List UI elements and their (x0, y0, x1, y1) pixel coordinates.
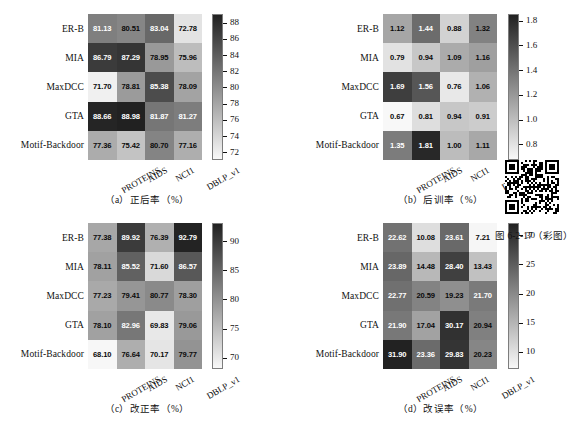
colorbar-tick-label: 1.6 (519, 40, 537, 50)
colorbar-tick-label: 1.2 (519, 89, 537, 99)
heatmap-cell: 28.40 (440, 252, 469, 281)
colorbar-tick-label: 80 (223, 82, 239, 92)
x-tick-label: DBLP_v1 (500, 374, 537, 401)
heatmap-cell: 21.90 (383, 311, 412, 340)
heatmap-cell: 1.06 (469, 72, 498, 101)
heatmap-cell: 82.96 (117, 311, 146, 340)
heatmap-cell: 86.57 (174, 252, 203, 281)
heatmap-cell: 1.81 (412, 131, 441, 160)
colorbar-gradient (212, 223, 223, 369)
heatmap-cell: 20.94 (469, 311, 498, 340)
heatmap-cell: 20.23 (469, 340, 498, 369)
y-tick-label: GTA (10, 102, 84, 131)
heatmap-cell: 78.81 (117, 72, 146, 101)
heatmap-cell: 22.77 (383, 281, 412, 310)
heatmap-cell: 1.69 (383, 72, 412, 101)
heatmap-cell: 78.30 (174, 281, 203, 310)
heatmap-cell: 76.64 (117, 340, 146, 369)
heatmap-cell: 19.23 (440, 281, 469, 310)
y-tick-label: MIA (10, 43, 84, 72)
heatmap-cell: 21.70 (469, 281, 498, 310)
heatmap-cell: 81.13 (88, 14, 117, 43)
colorbar: 1015202530 (508, 223, 553, 369)
heatmap-cell: 1.32 (469, 14, 498, 43)
x-tick-label: DBLP_v1 (205, 374, 242, 401)
heatmap-cell: 80.51 (117, 14, 146, 43)
heatmap-cell: 77.23 (88, 281, 117, 310)
heatmap-cell: 81.87 (145, 102, 174, 131)
heatmap-cell: 75.42 (117, 131, 146, 160)
heatmap-cell: 1.44 (412, 14, 441, 43)
heatmap-cell: 76.39 (145, 223, 174, 252)
heatmap-cell: 77.38 (88, 223, 117, 252)
colorbar-tick-label: 76 (223, 114, 239, 124)
panel-a: ER-BMIAMaxDCCGTAMotif-Backdoor81.1380.51… (0, 0, 294, 217)
heatmap-cell: 1.35 (383, 131, 412, 160)
heatmap-cell: 85.38 (145, 72, 174, 101)
heatmap-cell: 83.04 (145, 14, 174, 43)
colorbar-tick-label: 1.4 (519, 65, 537, 75)
heatmap-matrix: 22.6210.0823.617.2123.8914.4828.4013.432… (383, 223, 497, 369)
x-tick-label: NCI1 (174, 374, 196, 393)
heatmap-cell: 92.79 (174, 223, 203, 252)
colorbar-tick-label: 78 (223, 98, 239, 108)
heatmap-cell: 79.06 (174, 311, 203, 340)
colorbar-tick-label: 25 (519, 259, 535, 269)
y-tick-label: MIA (305, 252, 379, 281)
heatmap-cell: 69.83 (145, 311, 174, 340)
colorbar: 0.81.01.21.41.61.8 (508, 14, 553, 160)
heatmap-cell: 14.48 (412, 252, 441, 281)
colorbar-tick-label: 74 (223, 131, 239, 141)
y-axis-labels: ER-BMIAMaxDCCGTAMotif-Backdoor (305, 14, 383, 160)
heatmap-matrix: 77.3889.9276.3992.7978.1185.5271.6086.57… (88, 223, 202, 369)
x-tick-label: NCI1 (174, 165, 196, 184)
heatmap-cell: 1.11 (469, 131, 498, 160)
heatmap-cell: 0.76 (440, 72, 469, 101)
colorbar-tick-label: 15 (519, 317, 535, 327)
heatmap-cell: 13.43 (469, 252, 498, 281)
heatmap-cell: 1.12 (383, 14, 412, 43)
heatmap-cell: 75.96 (174, 43, 203, 72)
heatmap-cell: 31.90 (383, 340, 412, 369)
colorbar-tick-label: 82 (223, 66, 239, 76)
colorbar-gradient (508, 223, 519, 369)
colorbar-ticks: 0.81.01.21.41.61.8 (519, 14, 553, 160)
colorbar-ticks: 1015202530 (519, 223, 553, 369)
heatmap-cell: 80.70 (145, 131, 174, 160)
heatmap-cell: 80.77 (145, 281, 174, 310)
colorbar-tick-label: 88 (223, 17, 239, 27)
figure-label: 图 6-2-17（彩图） (495, 228, 573, 242)
heatmap-cell: 23.36 (412, 340, 441, 369)
heatmap-cell: 23.61 (440, 223, 469, 252)
heatmap-cell: 89.92 (117, 223, 146, 252)
heatmap-cell: 0.79 (383, 43, 412, 72)
heatmap-cell: 87.29 (117, 43, 146, 72)
colorbar-tick-label: 85 (223, 265, 239, 275)
heatmap-d: ER-BMIAMaxDCCGTAMotif-Backdoor22.6210.08… (305, 223, 497, 369)
heatmap-cell: 10.08 (412, 223, 441, 252)
x-tick-label: AIDS (146, 374, 169, 393)
heatmap-cell: 88.66 (88, 102, 117, 131)
heatmap-cell: 1.00 (440, 131, 469, 160)
y-tick-label: ER-B (305, 14, 379, 43)
heatmap-cell: 23.89 (383, 252, 412, 281)
colorbar-tick-label: 84 (223, 50, 239, 60)
heatmap-cell: 68.10 (88, 340, 117, 369)
colorbar-tick-label: 86 (223, 33, 239, 43)
y-tick-label: MaxDCC (10, 72, 84, 101)
y-axis-labels: ER-BMIAMaxDCCGTAMotif-Backdoor (10, 14, 88, 160)
heatmap-cell: 1.09 (440, 43, 469, 72)
heatmap-cell: 78.95 (145, 43, 174, 72)
colorbar-tick-label: 90 (223, 236, 239, 246)
heatmap-cell: 71.70 (88, 72, 117, 101)
heatmap-cell: 77.36 (88, 131, 117, 160)
y-tick-label: GTA (305, 102, 379, 131)
y-tick-label: Motif-Backdoor (10, 131, 84, 160)
heatmap-cell: 17.04 (412, 311, 441, 340)
heatmap-cell: 86.79 (88, 43, 117, 72)
panel-d: ER-BMIAMaxDCCGTAMotif-Backdoor22.6210.08… (294, 217, 587, 434)
y-tick-label: GTA (10, 311, 84, 340)
colorbar-tick-label: 75 (223, 323, 239, 333)
panel-caption: （d）改误率（%） (294, 401, 587, 415)
x-tick-label: AIDS (441, 374, 464, 393)
